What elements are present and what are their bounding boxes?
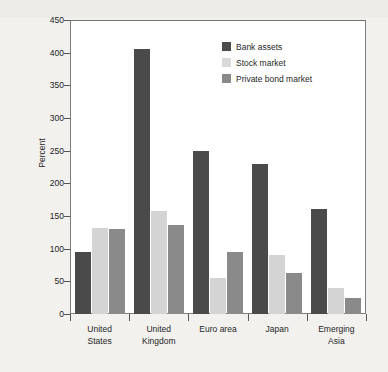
bar xyxy=(311,209,327,314)
bar xyxy=(109,229,125,314)
bar-group xyxy=(75,20,125,314)
bar xyxy=(193,151,209,314)
y-axis-tick-mark xyxy=(64,151,70,152)
y-axis-tick-label: 0 xyxy=(34,309,64,319)
y-axis-tick-label: 100 xyxy=(34,244,64,254)
y-axis-tick-mark xyxy=(64,20,70,21)
bar xyxy=(252,164,268,314)
y-axis-tick-label: 250 xyxy=(34,146,64,156)
y-axis-tick-label: 450 xyxy=(34,15,64,25)
legend-label: Private bond market xyxy=(236,74,312,84)
bar xyxy=(92,228,108,314)
x-axis-tick-mark xyxy=(307,314,308,321)
legend-item: Bank assets xyxy=(222,40,312,53)
y-axis-tick-mark xyxy=(64,281,70,282)
y-axis-tick-mark xyxy=(64,53,70,54)
y-axis-tick-mark xyxy=(64,118,70,119)
x-axis-tick-mark xyxy=(129,314,130,321)
bar xyxy=(328,288,344,314)
y-axis-tick-mark xyxy=(64,183,70,184)
y-axis-tick-mark xyxy=(64,216,70,217)
bar-group xyxy=(134,20,184,314)
x-axis-category-label: Japan xyxy=(248,324,307,336)
legend-swatch-icon xyxy=(222,74,231,83)
y-axis-tick-label: 50 xyxy=(34,276,64,286)
bar xyxy=(168,225,184,314)
bar xyxy=(286,273,302,314)
x-axis-category-label: United States xyxy=(70,324,129,347)
y-axis-tick-mark xyxy=(64,314,70,315)
legend-item: Private bond market xyxy=(222,72,312,85)
bar xyxy=(134,49,150,314)
x-axis-category-label: Emerging Asia xyxy=(307,324,366,347)
bar xyxy=(75,252,91,314)
y-axis-tick-label: 400 xyxy=(34,48,64,58)
x-axis-tick-mark xyxy=(70,314,71,321)
y-axis-tick-label: 350 xyxy=(34,80,64,90)
legend-swatch-icon xyxy=(222,42,231,51)
y-axis-tick-labels: 050100150200250300350400450 xyxy=(32,20,64,314)
x-axis-category-label: Euro area xyxy=(188,324,247,336)
bar-group xyxy=(311,20,361,314)
bar xyxy=(151,211,167,314)
bar-chart: Percent 050100150200250300350400450 Unit… xyxy=(0,0,388,372)
y-axis-tick-label: 300 xyxy=(34,113,64,123)
bar xyxy=(210,278,226,314)
bar xyxy=(227,252,243,314)
legend-label: Stock market xyxy=(236,58,286,68)
legend-item: Stock market xyxy=(222,56,312,69)
y-axis-tick-label: 200 xyxy=(34,178,64,188)
legend-label: Bank assets xyxy=(236,42,282,52)
y-axis-tick-mark xyxy=(64,85,70,86)
y-axis-tick-label: 150 xyxy=(34,211,64,221)
bars-layer xyxy=(70,20,366,314)
bar xyxy=(345,298,361,314)
legend-swatch-icon xyxy=(222,58,231,67)
x-axis-category-label: United Kingdom xyxy=(129,324,188,347)
y-axis-tick-mark xyxy=(64,249,70,250)
x-axis-tick-mark xyxy=(188,314,189,321)
legend: Bank assetsStock marketPrivate bond mark… xyxy=(222,40,312,88)
x-axis-tick-mark xyxy=(248,314,249,321)
x-axis-tick-mark xyxy=(366,314,367,321)
bar xyxy=(269,255,285,314)
